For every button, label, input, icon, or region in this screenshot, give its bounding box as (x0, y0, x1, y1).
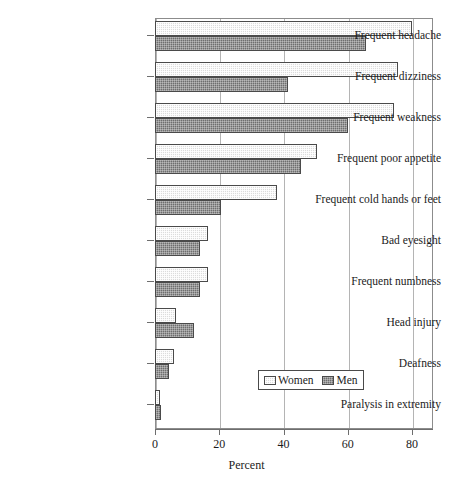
bar-women (155, 144, 317, 159)
bar-row: Frequent dizziness (0, 61, 453, 102)
women-swatch-icon (264, 376, 276, 385)
y-axis-label: Paralysis in extremity (341, 398, 441, 410)
x-axis-tick-label: 20 (204, 437, 234, 451)
y-axis-tick (147, 404, 154, 405)
bar-row: Frequent numbness (0, 266, 453, 307)
x-axis-tick (219, 430, 220, 435)
bar-row: Frequent headache (0, 20, 453, 61)
y-axis-label: Frequent numbness (351, 275, 441, 287)
x-axis-tick (155, 430, 156, 435)
y-axis-label: Frequent dizziness (355, 70, 441, 82)
bar-women (155, 390, 160, 405)
bar-men (155, 36, 366, 51)
y-axis-tick (147, 240, 154, 241)
bar-row: Paralysis in extremity (0, 389, 453, 430)
bar-row: Frequent weakness (0, 102, 453, 143)
x-axis-tick-label: 60 (333, 437, 363, 451)
legend-label-men: Men (336, 374, 357, 386)
bar-women (155, 308, 176, 323)
x-axis-title-label: Percent (229, 458, 265, 472)
y-axis-tick (147, 281, 154, 282)
bar-men (155, 77, 288, 92)
legend: Women Men (258, 370, 364, 390)
y-axis-label: Frequent cold hands or feet (315, 193, 441, 205)
men-swatch-icon (322, 376, 334, 385)
bar-row: Frequent poor appetite (0, 143, 453, 184)
x-axis-tick-label: 0 (140, 437, 170, 451)
x-axis-tick-label: 80 (397, 437, 427, 451)
x-axis-title: Percent (0, 458, 453, 473)
x-axis-tick-label: 40 (269, 437, 299, 451)
bar-men (155, 159, 301, 174)
y-axis-label: Deafness (399, 357, 441, 369)
bar-row: Head injury (0, 307, 453, 348)
bar-women (155, 185, 277, 200)
y-axis-tick (147, 363, 154, 364)
bar-women (155, 226, 208, 241)
y-axis-label: Frequent poor appetite (337, 152, 441, 164)
bar-row: Bad eyesight (0, 225, 453, 266)
y-axis-tick (147, 158, 154, 159)
bar-women (155, 267, 208, 282)
y-axis-tick (147, 35, 154, 36)
bar-men (155, 282, 200, 297)
y-axis-label: Head injury (386, 316, 441, 328)
y-axis-label: Bad eyesight (381, 234, 441, 246)
legend-entry-men: Men (322, 374, 357, 386)
bar-row: Frequent cold hands or feet (0, 184, 453, 225)
bar-men (155, 118, 348, 133)
bar-men (155, 241, 200, 256)
x-axis-tick (412, 430, 413, 435)
legend-entry-women: Women (264, 374, 313, 386)
bar-row: Deafness (0, 348, 453, 389)
y-axis-label: Frequent headache (354, 29, 441, 41)
y-axis-tick (147, 117, 154, 118)
bar-men (155, 364, 169, 379)
x-axis-tick (284, 430, 285, 435)
x-axis-tick (348, 430, 349, 435)
y-axis-tick (147, 76, 154, 77)
y-axis-label: Frequent weakness (353, 111, 441, 123)
y-axis-tick (147, 199, 154, 200)
bar-men (155, 323, 194, 338)
y-axis-tick (147, 322, 154, 323)
bar-chart: Frequent headacheFrequent dizzinessFrequ… (0, 0, 453, 490)
bar-men (155, 200, 221, 215)
bar-women (155, 349, 174, 364)
bar-men (155, 405, 161, 420)
legend-label-women: Women (278, 374, 313, 386)
